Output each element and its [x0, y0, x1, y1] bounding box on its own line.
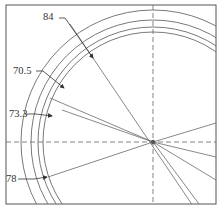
dimension-label-70-5: 70.5 [13, 66, 31, 77]
dimension-label-84: 84 [43, 12, 54, 23]
dimension-label-73-3: 73.3 [9, 109, 27, 120]
dimension-leaders [18, 18, 93, 179]
ring-inner [43, 32, 220, 213]
concentric-rings [21, 10, 220, 213]
ring-3 [38, 27, 220, 213]
dimension-label-78: 78 [6, 174, 17, 185]
radial-lines [48, 24, 216, 213]
technical-drawing [0, 0, 220, 213]
center-point [151, 140, 155, 144]
